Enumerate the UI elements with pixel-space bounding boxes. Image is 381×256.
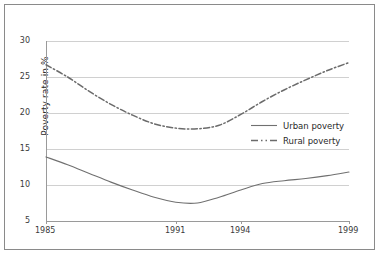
dash-dot-line-icon xyxy=(251,136,277,145)
legend-item-rural[interactable]: Rural poverty xyxy=(251,133,363,148)
chart-frame: Poverty rate in % 30 25 20 15 10 5 1985 … xyxy=(4,4,375,250)
x-tick-label-1991: 1991 xyxy=(165,227,185,235)
y-tick-label-10: 10 xyxy=(6,181,30,189)
solid-line-icon xyxy=(251,121,277,130)
x-tick-label-1999: 1999 xyxy=(338,227,358,235)
legend-label-urban: Urban poverty xyxy=(283,121,344,131)
y-tick-label-25: 25 xyxy=(6,73,30,81)
legend-item-urban[interactable]: Urban poverty xyxy=(251,118,363,133)
x-tick-label-1994: 1994 xyxy=(230,227,250,235)
x-tick-mark-1999 xyxy=(349,221,350,224)
y-tick-label-30: 30 xyxy=(6,37,30,45)
series-line-urban xyxy=(46,157,349,203)
x-tick-label-1985: 1985 xyxy=(35,227,55,235)
legend-label-rural: Rural poverty xyxy=(283,136,340,146)
y-tick-label-15: 15 xyxy=(6,145,30,153)
line-chart: Poverty rate in % 30 25 20 15 10 5 1985 … xyxy=(5,5,376,251)
y-tick-label-20: 20 xyxy=(6,109,30,117)
y-tick-label-5: 5 xyxy=(6,217,30,225)
chart-legend: Urban poverty Rural poverty xyxy=(251,118,363,148)
